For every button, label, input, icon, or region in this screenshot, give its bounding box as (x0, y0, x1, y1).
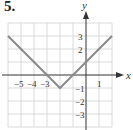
y-tick-neg1: −1 (75, 84, 85, 94)
y-tick-2: 2 (78, 45, 83, 55)
x-tick-neg3: −3 (40, 79, 50, 89)
y-tick-labels: 3 2 −1 −2 −3 (75, 32, 85, 120)
x-tick-neg4: −4 (27, 79, 37, 89)
x-axis (2, 72, 124, 78)
y-tick-neg2: −2 (75, 97, 85, 107)
y-tick-3: 3 (78, 32, 83, 42)
y-tick-neg3: −3 (75, 110, 85, 120)
x-axis-label: x (125, 69, 131, 81)
x-tick-neg5: −5 (14, 79, 24, 89)
y-axis-arrow-icon (83, 11, 89, 19)
coordinate-graph: x y −5 −4 −3 1 3 2 −1 −2 −3 (0, 0, 133, 130)
x-tick-labels: −5 −4 −3 1 (14, 79, 102, 89)
x-axis-arrow-icon (116, 72, 124, 78)
y-axis-label: y (81, 0, 87, 11)
x-tick-1: 1 (97, 79, 102, 89)
